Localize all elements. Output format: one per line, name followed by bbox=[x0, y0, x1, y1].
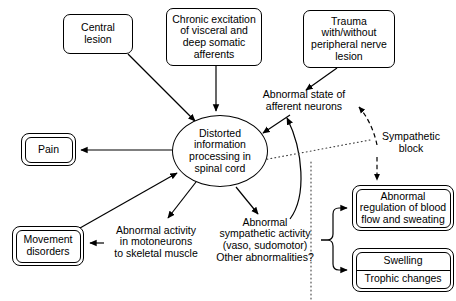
node-abnormal-sympathetic-activity: Abnormal sympathetic activity (vaso, sud… bbox=[210, 213, 320, 267]
diagram-canvas: Central lesion Chronic excitation of vis… bbox=[0, 0, 456, 301]
node-label: Pain bbox=[38, 144, 59, 156]
node-abnormal-afferent-state: Abnormal state of afferent neurons bbox=[252, 88, 356, 114]
node-movement-disorders[interactable]: Movement disorders bbox=[12, 226, 84, 266]
node-distorted-processing[interactable]: Distorted information processing in spin… bbox=[172, 115, 268, 187]
node-label: Movement disorders bbox=[23, 234, 72, 257]
edge-distorted-to-sympathetic bbox=[236, 187, 258, 214]
edge-trauma-to-afferent bbox=[306, 68, 337, 90]
node-pain-inner: Pain bbox=[25, 137, 73, 163]
node-label: Abnormal sympathetic activity (vaso, sud… bbox=[216, 217, 313, 263]
node-label: Swelling bbox=[383, 255, 422, 267]
node-label: Central lesion bbox=[81, 22, 115, 45]
edge-sympathetic-to-regulation bbox=[321, 208, 347, 240]
node-label: Abnormal state of afferent neurons bbox=[263, 89, 345, 112]
edge-afferent-to-distorted bbox=[263, 115, 290, 133]
node-label: Trophic changes bbox=[364, 273, 441, 285]
node-trophic-changes-segment: Trophic changes bbox=[357, 270, 450, 288]
node-swelling-trophic[interactable]: Swelling Trophic changes bbox=[352, 248, 454, 292]
edge-movement-to-distorted bbox=[80, 173, 177, 228]
node-label: Abnormal activity in motoneurons to skel… bbox=[114, 225, 197, 260]
node-movement-disorders-inner: Movement disorders bbox=[16, 230, 81, 263]
node-label: Distorted information processing in spin… bbox=[189, 128, 251, 174]
node-label: Chronic excitation of visceral and deep … bbox=[172, 14, 255, 60]
node-trauma[interactable]: Trauma with/without peripheral nerve les… bbox=[303, 10, 395, 68]
node-label: Trauma with/without peripheral nerve les… bbox=[311, 16, 387, 62]
edge-sympathetic-to-swelling bbox=[321, 240, 347, 270]
node-abnormal-motoneuron-activity: Abnormal activity in motoneurons to skel… bbox=[104, 222, 208, 262]
node-abnormal-regulation[interactable]: Abnormal regulation of blood flow and sw… bbox=[352, 185, 454, 231]
node-swelling-trophic-inner: Swelling Trophic changes bbox=[356, 252, 451, 289]
node-central-lesion[interactable]: Central lesion bbox=[63, 14, 133, 54]
edge-sympathetic-to-afferent bbox=[287, 118, 301, 219]
node-pain[interactable]: Pain bbox=[21, 133, 76, 166]
edge-block-dotted-marker bbox=[263, 140, 370, 160]
edge-distorted-to-motoneurons bbox=[168, 182, 196, 218]
node-label: Sympathetic block bbox=[382, 131, 440, 154]
node-abnormal-regulation-inner: Abnormal regulation of blood flow and sw… bbox=[356, 189, 451, 228]
node-chronic-excitation[interactable]: Chronic excitation of visceral and deep … bbox=[166, 8, 262, 66]
node-swelling-segment: Swelling bbox=[357, 253, 450, 270]
node-label: Abnormal regulation of blood flow and sw… bbox=[360, 191, 446, 226]
node-sympathetic-block: Sympathetic block bbox=[370, 130, 452, 156]
